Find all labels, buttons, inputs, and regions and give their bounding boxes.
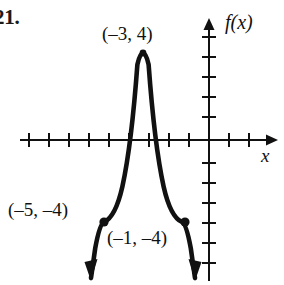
endpoint-dot-left [99,217,108,226]
graph-figure: 21. (–3, 4) f(x) x (–5, –4) (–1, –4) [0,0,284,285]
left-endpoint-label: (–5, –4) [8,200,68,219]
left-branch-arrowhead-icon [85,259,98,281]
problem-number: 21. [0,7,20,28]
y-axis-arrowhead-icon [204,18,215,30]
right-endpoint-label: (–1, –4) [107,228,167,247]
x-axis-label: x [261,146,269,165]
endpoint-dot-right [180,217,189,226]
vertex-dot [140,50,147,57]
vertex-point-label: (–3, 4) [102,24,153,43]
x-axis-arrowhead-icon [266,135,278,146]
right-branch-arrowhead-icon [189,259,202,281]
y-axis-label: f(x) [225,12,253,32]
